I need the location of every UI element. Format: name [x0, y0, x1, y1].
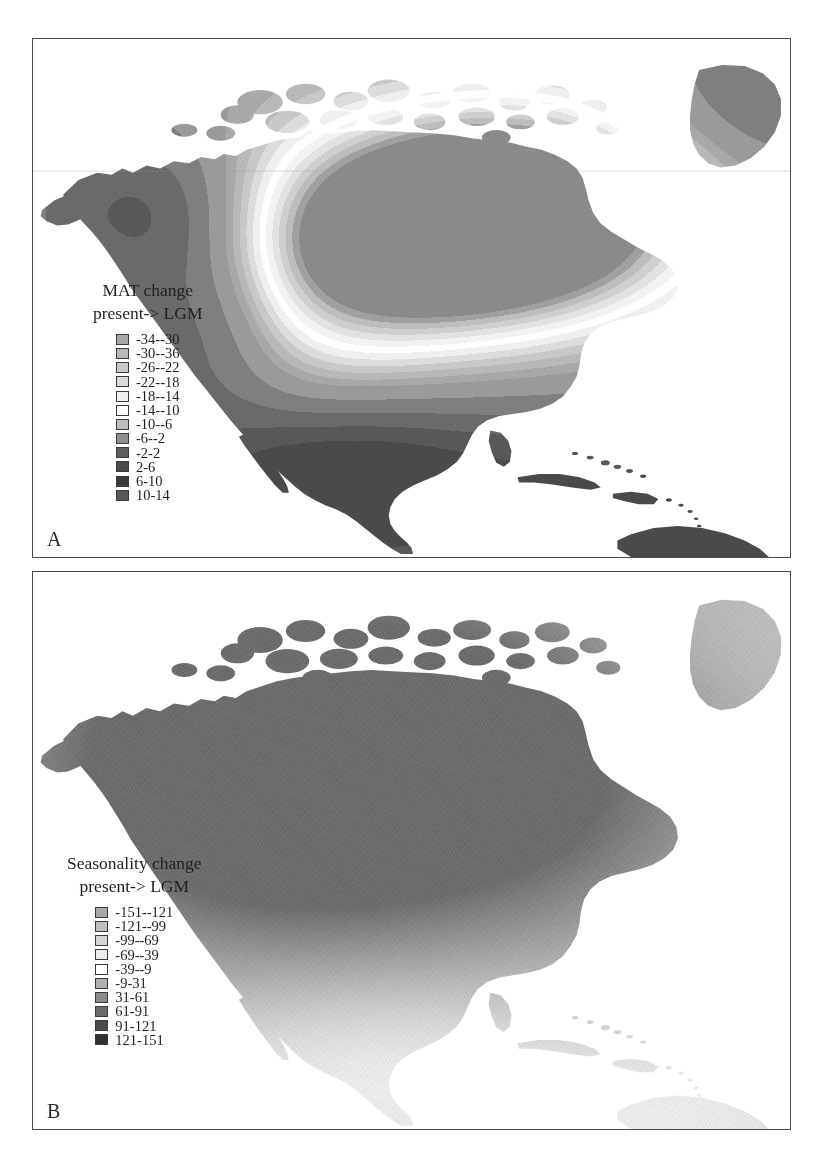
legend-swatch — [116, 447, 129, 458]
legend-row: -26--22 — [116, 361, 180, 375]
legend-row: -6--2 — [116, 432, 180, 446]
legend-swatch — [95, 949, 108, 960]
legend-label: -6--2 — [136, 431, 165, 446]
legend-a-title-line2: present-> LGM — [93, 302, 203, 325]
figure-root: MAT change present-> LGM -34--30-30--36-… — [0, 0, 823, 1163]
legend-swatch — [95, 1006, 108, 1017]
legend-row: -39--9 — [95, 962, 173, 976]
legend-swatch — [95, 992, 108, 1003]
legend-row: 2-6 — [116, 460, 180, 474]
legend-label: 121-151 — [115, 1033, 163, 1048]
legend-swatch — [95, 907, 108, 918]
legend-row: 10-14 — [116, 488, 180, 502]
legend-a-items: -34--30-30--36-26--22-22--18-18--14-14--… — [116, 332, 180, 502]
legend-label: -2-2 — [136, 446, 160, 461]
legend-swatch — [95, 978, 108, 989]
legend-swatch — [95, 1020, 108, 1031]
legend-row: -18--14 — [116, 389, 180, 403]
legend-swatch — [116, 419, 129, 430]
legend-swatch — [116, 490, 129, 501]
legend-b-title-line2: present-> LGM — [67, 875, 202, 898]
legend-swatch — [95, 935, 108, 946]
legend-row: -22--18 — [116, 375, 180, 389]
legend-swatch — [95, 1034, 108, 1045]
legend-swatch — [116, 334, 129, 345]
legend-b-items: -151--121-121--99-99--69-69--39-39--9-9-… — [95, 905, 173, 1047]
legend-swatch — [116, 391, 129, 402]
legend-row: -69--39 — [95, 948, 173, 962]
legend-seasonality-change: Seasonality change present-> LGM -151--1… — [67, 852, 202, 1049]
legend-swatch — [116, 376, 129, 387]
legend-label: -26--22 — [136, 360, 180, 375]
legend-label: 61-91 — [115, 1004, 149, 1019]
legend-label: 10-14 — [136, 488, 170, 503]
legend-row: -2-2 — [116, 446, 180, 460]
legend-b-title-line1: Seasonality change — [67, 852, 202, 875]
panel-a-letter: A — [47, 528, 62, 551]
legend-swatch — [95, 921, 108, 932]
legend-row: 91-121 — [95, 1019, 173, 1033]
panel-b: Seasonality change present-> LGM -151--1… — [32, 571, 791, 1130]
panel-b-letter: B — [47, 1100, 61, 1123]
legend-label: -99--69 — [115, 933, 159, 948]
legend-label: -69--39 — [115, 948, 159, 963]
legend-label: -22--18 — [136, 375, 180, 390]
panel-a: MAT change present-> LGM -34--30-30--36-… — [32, 38, 791, 558]
legend-swatch — [116, 476, 129, 487]
legend-a-title-line1: MAT change — [93, 279, 203, 302]
legend-row: -99--69 — [95, 934, 173, 948]
legend-label: 91-121 — [115, 1019, 156, 1034]
legend-swatch — [116, 405, 129, 416]
legend-row: 61-91 — [95, 1005, 173, 1019]
legend-swatch — [116, 433, 129, 444]
legend-swatch — [95, 964, 108, 975]
legend-swatch — [116, 362, 129, 373]
legend-swatch — [116, 461, 129, 472]
legend-mat-change: MAT change present-> LGM -34--30-30--36-… — [93, 279, 203, 505]
legend-swatch — [116, 348, 129, 359]
legend-row: 121-151 — [95, 1033, 173, 1047]
